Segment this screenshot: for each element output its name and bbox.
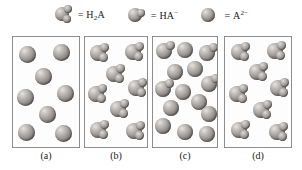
legend-species-a-sup: 2−	[240, 9, 248, 17]
particle-h2a	[269, 121, 292, 145]
ha-minus-molecule-icon	[127, 5, 147, 25]
particle-proton-lobe	[276, 51, 285, 60]
particle-proton-lobe	[135, 42, 144, 51]
particle-h2a	[125, 41, 148, 65]
legend-species-h2a-tail: A	[97, 9, 104, 20]
particle-proton-lobe	[211, 74, 218, 83]
particle-proton-lobe	[97, 94, 106, 103]
particle-h2a	[231, 119, 255, 143]
acid-species-particle-diagram: = H2A = HA− = A2− (a) (b) (c) (d)	[0, 0, 302, 170]
particle-proton-lobe	[209, 43, 218, 52]
particle-proton-lobe	[277, 41, 286, 50]
particle-core	[201, 106, 217, 122]
particle-core	[177, 42, 193, 58]
particle-core	[163, 100, 179, 116]
a-2minus-ion-icon	[200, 5, 220, 25]
particle-a2	[55, 122, 80, 147]
particle-proton-lobe	[119, 109, 128, 118]
particle-h2a	[126, 120, 148, 144]
legend-item-h2a: = H2A	[54, 3, 105, 27]
panel-label-c: (c)	[152, 150, 218, 161]
particle-a2	[177, 121, 201, 145]
legend-label-a-2minus: = A2−	[224, 9, 248, 21]
particle-h2a	[90, 119, 114, 143]
legend-label-h2a: = H2A	[78, 9, 105, 22]
particle-proton-lobe	[238, 94, 247, 103]
panel-label-d: (d)	[224, 150, 292, 161]
particle-core	[17, 89, 34, 106]
particle-h2a	[270, 77, 292, 101]
legend-label-ha-minus: = HA−	[151, 9, 179, 21]
particle-core	[35, 68, 52, 85]
legend-equals-a: =	[224, 10, 230, 21]
particle-core	[57, 85, 74, 102]
particle-core	[55, 125, 72, 142]
legend-species-h2a-main: H	[86, 9, 93, 20]
particle-proton-lobe	[279, 122, 288, 131]
particle-core	[53, 44, 70, 61]
particle-h2a	[229, 83, 253, 107]
legend-species-ha-main: HA	[159, 10, 174, 21]
particle-core	[18, 124, 35, 141]
legend-equals-h2a: =	[78, 9, 84, 20]
particle-proton-lobe	[120, 99, 129, 108]
panel-c	[152, 36, 218, 148]
legend-item-a-2minus: = A2−	[200, 3, 248, 27]
particle-proton-lobe	[138, 78, 147, 87]
legend-equals-ha: =	[151, 10, 157, 21]
particle-core	[199, 126, 215, 142]
particle-proton-lobe	[135, 131, 144, 140]
particle-proton-lobe	[100, 120, 109, 129]
particle-a2	[53, 41, 78, 66]
legend-item-ha-minus: = HA−	[127, 3, 179, 27]
particle-proton-lobe	[98, 84, 107, 93]
particle-proton-lobe	[240, 130, 249, 139]
panel-a	[12, 36, 80, 148]
particle-a2	[18, 121, 43, 146]
particle-a2	[155, 115, 179, 139]
particle-proton-lobe	[241, 42, 250, 51]
particle-proton-lobe	[262, 110, 271, 119]
panel-b	[84, 36, 148, 148]
h2a-molecule-icon	[54, 5, 74, 25]
particle-core	[177, 124, 193, 140]
particle-proton-lobe	[263, 100, 272, 109]
particle-proton-lobe	[165, 79, 174, 88]
legend: = H2A = HA− = A2−	[0, 0, 302, 30]
particle-proton-lobe	[115, 74, 124, 83]
panel-label-a: (a)	[12, 150, 80, 161]
particle-core	[19, 46, 36, 63]
particle-proton-lobe	[137, 88, 146, 97]
particle-proton-lobe	[134, 52, 143, 61]
particle-proton-lobe	[166, 41, 175, 50]
particle-h2a	[253, 99, 277, 123]
particle-a2	[199, 123, 218, 147]
particle-proton-lobe	[278, 132, 287, 141]
particle-proton-lobe	[259, 62, 268, 71]
panel-d	[224, 36, 292, 148]
particle-h2a	[88, 83, 112, 107]
particle-proton-lobe	[116, 64, 125, 73]
particle-proton-lobe	[279, 88, 288, 97]
particle-proton-lobe	[99, 130, 108, 139]
particle-proton-lobe	[258, 72, 267, 81]
particle-proton-lobe	[100, 43, 109, 52]
legend-species-ha-sup: −	[174, 9, 178, 17]
particle-proton-lobe	[99, 53, 108, 62]
particle-proton-lobe	[136, 121, 145, 130]
particle-core	[155, 118, 171, 134]
particle-proton-lobe	[280, 78, 289, 87]
particle-proton-lobe	[240, 52, 249, 61]
particle-proton-lobe	[239, 84, 248, 93]
panel-label-b: (b)	[84, 150, 148, 161]
particle-proton-lobe	[241, 120, 250, 129]
